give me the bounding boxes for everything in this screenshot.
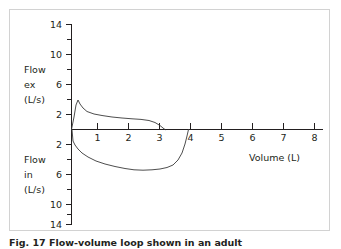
x-axis-label-7: 7 [280,132,286,143]
y-axis-label-ex-2: 2 [56,109,62,120]
y-axis-title-ex-line2: ex [24,79,36,90]
y-axis-title-in-line3: (L/s) [24,184,45,195]
x-axis-label-1: 1 [94,132,100,143]
figure-frame: 14 10 6 2 2 6 10 14 1 2 3 4 5 6 7 8 Flow… [9,9,330,231]
y-axis-title-ex-line3: (L/s) [24,94,45,105]
y-axis-label-ex-10: 10 [50,49,62,60]
y-axis-label-in-6: 6 [56,169,62,180]
y-axis-label-ex-6: 6 [56,79,62,90]
y-axis-title-in-line2: in [24,169,33,180]
x-axis-label-8: 8 [311,132,317,143]
x-axis-label-6: 6 [249,132,255,143]
y-axis-title-in-line1: Flow [24,154,46,165]
x-axis-label-4: 4 [187,132,193,143]
x-axis-label-2: 2 [125,132,131,143]
y-axis-label-in-10: 10 [50,199,62,210]
x-axis-label-3: 3 [156,132,162,143]
y-axis-label-in-14: 14 [50,219,62,230]
figure-caption: Fig. 17 Flow-volume loop shown in an adu… [9,237,341,249]
flow-volume-loop-chart: 14 10 6 2 2 6 10 14 1 2 3 4 5 6 7 8 Flow… [10,10,331,232]
y-axis-label-ex-14: 14 [50,19,62,30]
x-axis-title: Volume (L) [249,152,300,163]
expiratory-limb-curve [72,100,166,130]
y-axis-label-in-2: 2 [56,139,62,150]
x-axis-label-5: 5 [218,132,224,143]
y-axis-title-ex-line1: Flow [24,64,46,75]
